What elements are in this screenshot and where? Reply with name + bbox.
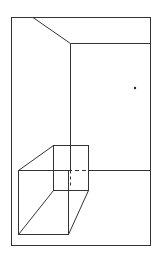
ceiling-edge-line [33, 18, 71, 44]
perspective-diagram [0, 0, 158, 260]
box-top-left-edge [19, 146, 54, 171]
box-bottom-diagonal [19, 191, 54, 235]
box-bottom-right-edge [69, 191, 89, 235]
point-marker [134, 87, 136, 89]
outer-frame [12, 18, 151, 246]
